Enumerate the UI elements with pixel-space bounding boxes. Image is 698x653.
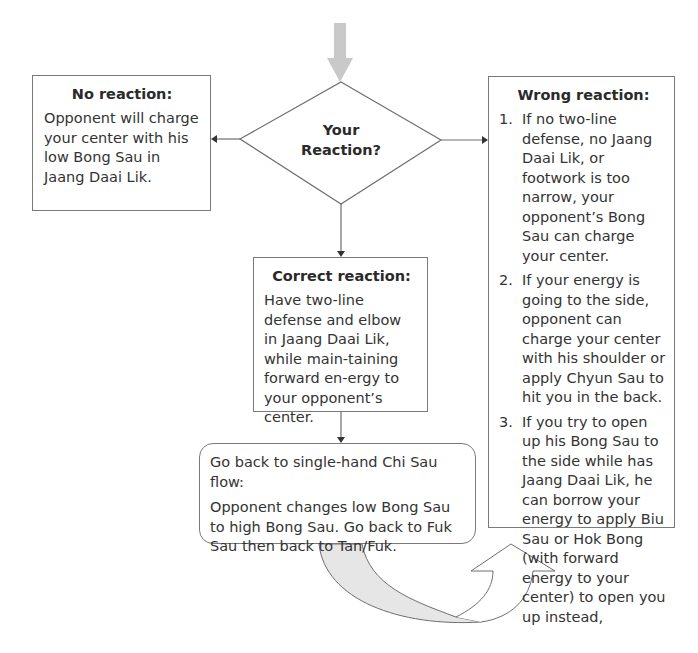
correct-reaction-text: Have two-line defense and elbow in Jaang… (264, 291, 419, 428)
item-text: If you try to open up his Bong Sau to th… (522, 414, 666, 625)
item-text: If no two-line defense, no Jaang Daai Li… (522, 111, 652, 264)
no-reaction-text: Opponent will charge your center with hi… (44, 109, 200, 187)
item-number: 3. (499, 413, 513, 433)
wrong-reaction-box: Wrong reaction: 1. If no two-line defens… (488, 76, 675, 528)
decision-label-line1: Your (290, 120, 392, 140)
wrong-reaction-title: Wrong reaction: (499, 86, 668, 105)
correct-reaction-box: Correct reaction: Have two-line defense … (253, 257, 428, 412)
correct-reaction-title: Correct reaction: (264, 267, 419, 286)
entry-arrow (327, 23, 353, 82)
wrong-reaction-item: 3. If you try to open up his Bong Sau to… (499, 413, 668, 628)
flow-back-box: Go back to single-hand Chi Sau flow: Opp… (199, 443, 476, 544)
flow-back-heading: Go back to single-hand Chi Sau flow: (210, 453, 467, 492)
flow-back-text: Opponent changes low Bong Sau to high Bo… (210, 498, 467, 557)
no-reaction-title: No reaction: (44, 85, 200, 104)
wrong-reaction-item: 2. If your energy is going to the side, … (499, 271, 668, 408)
wrong-reaction-list: 1. If no two-line defense, no Jaang Daai… (499, 110, 668, 627)
arrowhead-no-reaction (211, 135, 217, 143)
no-reaction-box: No reaction: Opponent will charge your c… (32, 75, 211, 211)
decision-label-line2: Reaction? (290, 140, 392, 160)
wrong-reaction-item: 1. If no two-line defense, no Jaang Daai… (499, 110, 668, 266)
decision-label: Your Reaction? (290, 120, 392, 160)
item-number: 2. (499, 271, 513, 291)
item-text: If your energy is going to the side, opp… (522, 272, 665, 405)
item-number: 1. (499, 110, 513, 130)
